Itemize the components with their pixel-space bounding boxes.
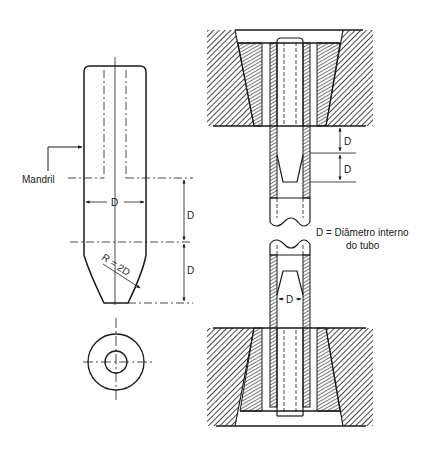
top-die: [207, 30, 373, 126]
mandrel-label: Mandril: [22, 174, 55, 185]
mandrel-drawing: Mandril D D D R = 2D: [0, 0, 433, 450]
mandrel-side-view: Mandril D D D R = 2D: [22, 57, 194, 305]
die-dimensions: D D: [310, 128, 356, 182]
radius-label: R = 2D: [100, 251, 132, 277]
tube-inner-diameter-label: D: [286, 294, 293, 305]
legend-line-2: do tubo: [346, 240, 380, 251]
die-gap-label-2: D: [344, 164, 351, 175]
mandrel-end-view: [83, 318, 152, 400]
mandrel-lower-length-label: D: [187, 265, 194, 276]
mandrel-upper-length-label: D: [187, 210, 194, 221]
tube-upper: [270, 38, 310, 226]
bottom-die: [207, 328, 373, 426]
mandrel-width-label: D: [111, 197, 118, 208]
legend-line-1: D = Diâmetro interno: [316, 227, 409, 238]
die-gap-label-1: D: [344, 136, 351, 147]
